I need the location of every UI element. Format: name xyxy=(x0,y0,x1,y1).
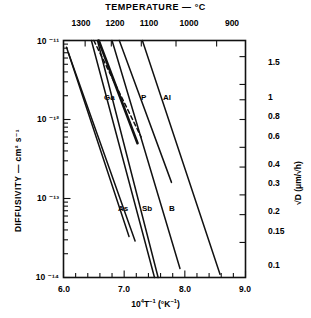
curve-P xyxy=(119,41,171,183)
diffusivity-arrhenius-figure: TEMPERATURE — °C 1300 1200 1100 1000 900… xyxy=(0,0,311,318)
curve-Al xyxy=(142,41,220,275)
data-curves xyxy=(67,41,220,278)
plot-canvas xyxy=(0,0,311,318)
